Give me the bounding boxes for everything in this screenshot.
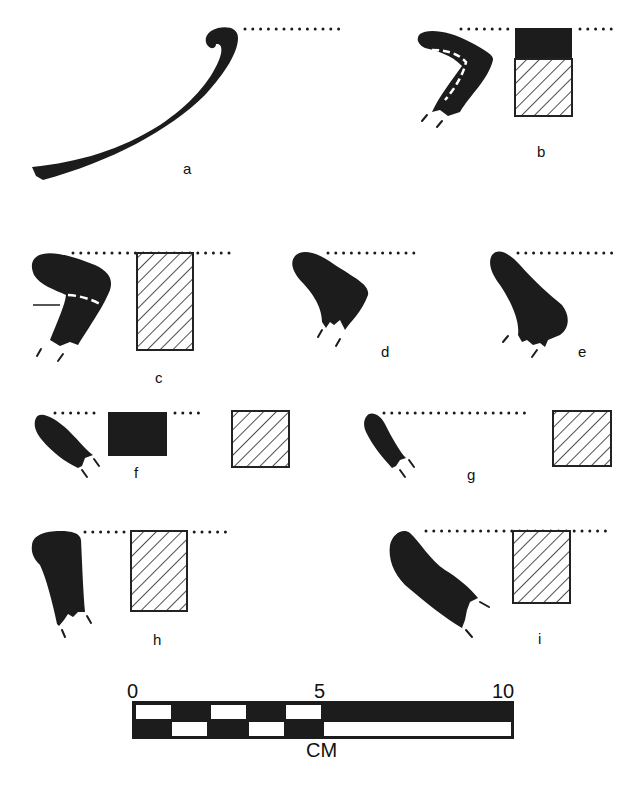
profile-g: g	[364, 411, 611, 483]
profile-h: h	[32, 531, 228, 648]
label-e: e	[578, 343, 586, 360]
label-d: d	[381, 343, 389, 360]
profile-c: c	[32, 253, 235, 386]
sherd-profile-g	[364, 413, 406, 468]
section-hatched	[232, 411, 289, 467]
section-hatched	[553, 411, 611, 466]
section-hatched	[131, 531, 187, 611]
sherd-profile-a	[32, 27, 238, 180]
label-f: f	[134, 464, 139, 481]
label-h: h	[153, 631, 161, 648]
sherd-profile-d	[292, 252, 368, 330]
pottery-figure: a b c d e	[0, 0, 639, 790]
sherd-profile-c	[32, 253, 111, 346]
profile-e: e	[490, 252, 612, 360]
scale-unit: CM	[306, 739, 337, 761]
section-solid	[108, 412, 167, 456]
profile-f: f	[35, 411, 289, 481]
sherd-profile-f	[35, 415, 93, 468]
profile-a: a	[32, 27, 340, 180]
section-solid	[515, 28, 572, 59]
sherd-profile-e	[490, 252, 568, 347]
profile-i: i	[390, 531, 612, 647]
sherd-profile-h	[32, 531, 85, 626]
scale-tick-5: 5	[314, 680, 325, 702]
profile-d: d	[292, 252, 420, 360]
sherd-profile-b	[418, 31, 493, 116]
label-a: a	[183, 160, 192, 177]
label-b: b	[537, 143, 545, 160]
scale-bar: 0 5 10 CM	[127, 680, 514, 761]
section-hatched	[513, 531, 570, 603]
label-i: i	[538, 630, 541, 647]
sherd-profile-i	[390, 531, 478, 628]
scale-tick-0: 0	[127, 680, 138, 702]
profile-b: b	[418, 28, 612, 160]
section-hatched	[137, 253, 193, 350]
section-hatched	[515, 59, 572, 116]
scale-tick-10: 10	[492, 680, 514, 702]
label-c: c	[155, 369, 163, 386]
label-g: g	[467, 466, 475, 483]
